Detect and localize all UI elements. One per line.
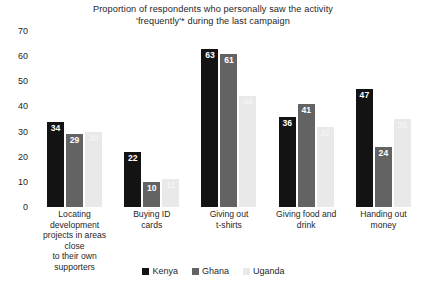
bar-value-label: 44 (239, 97, 256, 107)
category-label-line: Giving out (210, 209, 249, 219)
category-label-line: projects in areas close (43, 230, 106, 251)
bar-chart: Proportion of respondents who personally… (0, 0, 427, 290)
category-label-line: Handing out (360, 209, 406, 219)
bar-uganda[interactable]: 32 (317, 127, 334, 207)
x-axis-category-labels: Locating developmentprojects in areas cl… (36, 209, 422, 261)
bar-value-label: 29 (66, 135, 83, 145)
bar-group: 636144 (190, 31, 267, 207)
category-label-line: to their own (52, 251, 96, 261)
bar-kenya[interactable]: 36 (279, 117, 296, 208)
category-label: Giving food anddrink (268, 209, 345, 230)
category-label-line: Locating development (50, 209, 99, 230)
bar-kenya[interactable]: 47 (356, 89, 373, 207)
category-label: Buying IDcards (113, 209, 190, 230)
y-axis-tick-10: 10 (18, 177, 28, 187)
bar-value-label: 10 (143, 183, 160, 193)
bar-value-label: 36 (279, 118, 296, 128)
chart-title-line-2: 'frequently'* during the last campaign (136, 16, 290, 26)
chart-title: Proportion of respondents who personally… (48, 3, 378, 27)
bar-value-label: 30 (85, 133, 102, 143)
legend-swatch-icon (142, 268, 149, 275)
chart-title-line-1: Proportion of respondents who personally… (93, 4, 333, 14)
bar-uganda[interactable]: 30 (85, 132, 102, 207)
y-axis-tick-60: 60 (18, 51, 28, 61)
y-axis-tick-50: 50 (18, 76, 28, 86)
legend-label: Uganda (253, 266, 285, 276)
legend-label: Ghana (202, 266, 229, 276)
plot-area: 342930221011636144364132472435 (36, 31, 422, 207)
bar-ghana[interactable]: 10 (143, 182, 160, 207)
legend-item-uganda[interactable]: Uganda (243, 266, 285, 276)
bar-ghana[interactable]: 24 (375, 147, 392, 207)
bar-value-label: 35 (394, 120, 411, 130)
y-axis-tick-70: 70 (18, 26, 28, 36)
y-axis-tick-20: 20 (18, 152, 28, 162)
y-axis-tick-30: 30 (18, 127, 28, 137)
bar-value-label: 32 (317, 128, 334, 138)
bar-value-label: 24 (375, 148, 392, 158)
bar-value-label: 11 (162, 180, 179, 190)
y-axis: 706050403020100 (0, 31, 34, 207)
bar-kenya[interactable]: 63 (201, 49, 218, 207)
category-label: Locating developmentprojects in areas cl… (36, 209, 113, 273)
bar-ghana[interactable]: 41 (298, 104, 315, 207)
bar-uganda[interactable]: 44 (239, 96, 256, 207)
bar-uganda[interactable]: 11 (162, 179, 179, 207)
bar-value-label: 41 (298, 105, 315, 115)
category-label-line: t-shirts (216, 220, 242, 230)
bar-group: 342930 (36, 31, 113, 207)
category-label-line: Giving food and (276, 209, 336, 219)
legend-item-ghana[interactable]: Ghana (192, 266, 229, 276)
bar-ghana[interactable]: 61 (220, 54, 237, 207)
legend-label: Kenya (152, 266, 178, 276)
category-label: Giving outt-shirts (190, 209, 267, 230)
bar-uganda[interactable]: 35 (394, 119, 411, 207)
bar-value-label: 22 (124, 153, 141, 163)
bar-group: 221011 (113, 31, 190, 207)
category-label-line: money (370, 220, 396, 230)
category-label-line: cards (141, 220, 162, 230)
y-axis-tick-0: 0 (23, 202, 28, 212)
bar-kenya[interactable]: 22 (124, 152, 141, 207)
category-label: Handing outmoney (345, 209, 422, 230)
bar-value-label: 47 (356, 90, 373, 100)
legend-swatch-icon (192, 268, 199, 275)
bar-group: 364132 (268, 31, 345, 207)
category-label-line: Buying ID (133, 209, 170, 219)
bar-value-label: 34 (47, 123, 64, 133)
bar-ghana[interactable]: 29 (66, 134, 83, 207)
category-label-line: drink (297, 220, 316, 230)
chart-legend: KenyaGhanaUganda (0, 266, 427, 276)
y-axis-tick-40: 40 (18, 101, 28, 111)
bar-value-label: 63 (201, 50, 218, 60)
bar-value-label: 61 (220, 55, 237, 65)
bar-group: 472435 (345, 31, 422, 207)
legend-swatch-icon (243, 268, 250, 275)
legend-item-kenya[interactable]: Kenya (142, 266, 178, 276)
bar-kenya[interactable]: 34 (47, 122, 64, 207)
